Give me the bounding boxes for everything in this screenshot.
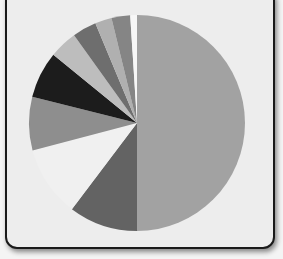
pie-chart	[0, 0, 283, 259]
pie-slice-1	[137, 15, 245, 231]
